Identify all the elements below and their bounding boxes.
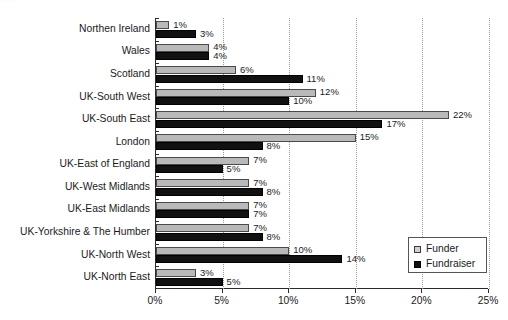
bar-fundraiser[interactable] bbox=[156, 142, 263, 150]
bar-funder[interactable] bbox=[156, 247, 289, 255]
bar-value-fundraiser: 3% bbox=[200, 29, 214, 39]
category-label: Wales bbox=[8, 46, 150, 56]
category-label: Northen Ireland bbox=[8, 24, 150, 34]
x-tick-10% bbox=[288, 289, 289, 293]
x-tick-5% bbox=[222, 289, 223, 293]
bar-funder[interactable] bbox=[156, 44, 209, 52]
bar-fundraiser[interactable] bbox=[156, 52, 209, 60]
bar-funder[interactable] bbox=[156, 89, 316, 97]
bar-value-fundraiser: 17% bbox=[386, 119, 405, 129]
legend-item-fundraiser[interactable]: Fundraiser bbox=[414, 257, 486, 271]
bar-fundraiser[interactable] bbox=[156, 210, 249, 218]
bar-value-funder: 7% bbox=[253, 155, 267, 165]
x-tick-20% bbox=[421, 289, 422, 293]
bar-value-fundraiser: 14% bbox=[346, 254, 365, 264]
bar-value-fundraiser: 8% bbox=[267, 232, 281, 242]
category-label: UK-Yorkshire & The Humber bbox=[8, 227, 150, 237]
gridline-25% bbox=[489, 18, 490, 289]
bar-value-fundraiser: 5% bbox=[227, 164, 241, 174]
bar-fundraiser[interactable] bbox=[156, 278, 223, 286]
bar-value-funder: 10% bbox=[293, 245, 312, 255]
bar-value-fundraiser: 10% bbox=[293, 96, 312, 106]
bar-value-funder: 12% bbox=[320, 87, 339, 97]
bar-group: 1%3% bbox=[156, 18, 489, 41]
bar-funder[interactable] bbox=[156, 269, 196, 277]
category-label: UK-North East bbox=[8, 272, 150, 282]
bar-value-funder: 6% bbox=[240, 65, 254, 75]
bar-fundraiser[interactable] bbox=[156, 165, 223, 173]
bar-group: 6%11% bbox=[156, 63, 489, 86]
bar-value-fundraiser: 7% bbox=[253, 209, 267, 219]
bar-value-fundraiser: 5% bbox=[227, 277, 241, 287]
legend-item-funder[interactable]: Funder bbox=[414, 242, 486, 256]
bar-fundraiser[interactable] bbox=[156, 255, 342, 263]
x-tick-0% bbox=[155, 289, 156, 293]
x-tick-label-20%: 20% bbox=[401, 296, 441, 306]
x-tick-label-25%: 25% bbox=[468, 296, 508, 306]
bar-value-funder: 22% bbox=[453, 110, 472, 120]
bar-value-funder: 7% bbox=[253, 223, 267, 233]
bar-value-fundraiser: 8% bbox=[267, 187, 281, 197]
chart-legend: Funder Fundraiser bbox=[408, 237, 487, 273]
y-tick bbox=[155, 244, 159, 245]
x-tick-25% bbox=[488, 289, 489, 293]
category-label: Scotland bbox=[8, 69, 150, 79]
x-tick-label-10%: 10% bbox=[268, 296, 308, 306]
category-label: London bbox=[8, 137, 150, 147]
bar-funder[interactable] bbox=[156, 224, 249, 232]
category-label: UK-North West bbox=[8, 250, 150, 260]
horizontal-bar-chart: Northen IrelandWalesScotlandUK-South Wes… bbox=[0, 0, 508, 320]
bar-group: 7%7% bbox=[156, 199, 489, 222]
category-label: UK-East of England bbox=[8, 159, 150, 169]
x-tick-15% bbox=[355, 289, 356, 293]
bar-group: 15%8% bbox=[156, 131, 489, 154]
y-tick bbox=[155, 86, 159, 87]
category-label: UK-South West bbox=[8, 92, 150, 102]
x-tick-label-0%: 0% bbox=[135, 296, 175, 306]
y-tick bbox=[155, 221, 159, 222]
bar-fundraiser[interactable] bbox=[156, 75, 303, 83]
bar-fundraiser[interactable] bbox=[156, 120, 382, 128]
bar-funder[interactable] bbox=[156, 134, 356, 142]
bar-value-funder: 1% bbox=[173, 20, 187, 30]
y-tick bbox=[155, 131, 159, 132]
y-tick bbox=[155, 41, 159, 42]
legend-label-fundraiser: Fundraiser bbox=[426, 259, 475, 269]
bar-fundraiser[interactable] bbox=[156, 97, 289, 105]
x-tick-label-5%: 5% bbox=[202, 296, 242, 306]
bar-group: 12%10% bbox=[156, 86, 489, 109]
bar-group: 22%17% bbox=[156, 108, 489, 131]
y-tick bbox=[155, 199, 159, 200]
x-tick-label-15%: 15% bbox=[335, 296, 375, 306]
category-label: UK-South East bbox=[8, 114, 150, 124]
y-tick bbox=[155, 63, 159, 64]
bar-value-funder: 7% bbox=[253, 178, 267, 188]
bar-value-funder: 3% bbox=[200, 268, 214, 278]
y-tick bbox=[155, 108, 159, 109]
y-tick bbox=[155, 266, 159, 267]
bar-funder[interactable] bbox=[156, 21, 169, 29]
bar-funder[interactable] bbox=[156, 202, 249, 210]
bar-funder[interactable] bbox=[156, 179, 249, 187]
funder-swatch-icon bbox=[414, 246, 421, 253]
bar-fundraiser[interactable] bbox=[156, 30, 196, 38]
bar-group: 7%5% bbox=[156, 154, 489, 177]
fundraiser-swatch-icon bbox=[414, 261, 421, 268]
legend-label-funder: Funder bbox=[426, 244, 459, 254]
y-tick bbox=[155, 154, 159, 155]
category-axis-labels: Northen IrelandWalesScotlandUK-South Wes… bbox=[8, 18, 150, 289]
category-label: UK-East Midlands bbox=[8, 204, 150, 214]
y-tick bbox=[155, 176, 159, 177]
bar-group: 7%8% bbox=[156, 176, 489, 199]
bar-group: 4%4% bbox=[156, 41, 489, 64]
category-label: UK-West Midlands bbox=[8, 182, 150, 192]
bar-value-fundraiser: 4% bbox=[213, 51, 227, 61]
bar-value-fundraiser: 8% bbox=[267, 141, 281, 151]
bar-funder[interactable] bbox=[156, 66, 236, 74]
bar-fundraiser[interactable] bbox=[156, 233, 263, 241]
bar-fundraiser[interactable] bbox=[156, 188, 263, 196]
bar-value-fundraiser: 11% bbox=[307, 74, 325, 84]
y-tick bbox=[155, 18, 159, 19]
bar-value-funder: 15% bbox=[360, 132, 379, 142]
